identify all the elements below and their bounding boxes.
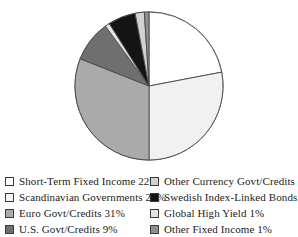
legend-us-govt-credits-label: U.S. Govt/Credits 9% <box>19 223 118 236</box>
legend-short-term-fixed-income-label: Short-Term Fixed Income 22% <box>19 175 159 188</box>
legend-euro-govt-credits[interactable]: Euro Govt/Credits 31% <box>5 206 151 221</box>
legend-swedish-index-linked-bonds-swatch <box>150 193 159 202</box>
legend-short-term-fixed-income-swatch <box>5 177 14 186</box>
legend-scandinavian-governments-swatch <box>5 193 14 202</box>
legend-scandinavian-governments[interactable]: Scandinavian Governments 28% <box>5 190 151 205</box>
pie-chart-svg: Short-Term Fixed Income 22%Scandinavian … <box>54 4 244 168</box>
legend-other-fixed-income-swatch <box>150 225 159 234</box>
legend-euro-govt-credits-label: Euro Govt/Credits 31% <box>19 207 125 220</box>
chart-legend: Short-Term Fixed Income 22%Scandinavian … <box>0 172 298 237</box>
legend-other-currency-govt-credits-swatch <box>150 177 159 186</box>
legend-global-high-yield-label: Global High Yield 1% <box>164 207 264 220</box>
legend-euro-govt-credits-swatch <box>5 209 14 218</box>
legend-swedish-index-linked-bonds-label: Swedish Index-Linked Bonds 6% <box>164 191 298 204</box>
legend-us-govt-credits-swatch <box>5 225 14 234</box>
pie-slice-group: Short-Term Fixed Income 22%Scandinavian … <box>75 12 223 160</box>
legend-global-high-yield-swatch <box>150 209 159 218</box>
legend-other-fixed-income[interactable]: Other Fixed Income 1% <box>150 222 298 237</box>
legend-short-term-fixed-income[interactable]: Short-Term Fixed Income 22% <box>5 174 151 189</box>
pie-chart-area: Short-Term Fixed Income 22%Scandinavian … <box>0 4 298 168</box>
legend-other-fixed-income-label: Other Fixed Income 1% <box>164 223 272 236</box>
legend-column-left: Short-Term Fixed Income 22%Scandinavian … <box>5 174 151 237</box>
legend-swedish-index-linked-bonds[interactable]: Swedish Index-Linked Bonds 6% <box>150 190 298 205</box>
pie-chart-figure: Fixed Income Portfolio Allocation Short-… <box>0 0 298 237</box>
legend-other-currency-govt-credits[interactable]: Other Currency Govt/Credits 2% <box>150 174 298 189</box>
legend-us-govt-credits[interactable]: U.S. Govt/Credits 9% <box>5 222 151 237</box>
cropped-title-text: Fixed Income Portfolio Allocation <box>87 0 211 2</box>
legend-column-right: Other Currency Govt/Credits 2%Swedish In… <box>150 174 298 237</box>
legend-scandinavian-governments-label: Scandinavian Governments 28% <box>19 191 166 204</box>
legend-other-currency-govt-credits-label: Other Currency Govt/Credits 2% <box>164 175 298 188</box>
legend-global-high-yield[interactable]: Global High Yield 1% <box>150 206 298 221</box>
pie-slice-1[interactable]: Scandinavian Governments 28% <box>149 72 223 160</box>
